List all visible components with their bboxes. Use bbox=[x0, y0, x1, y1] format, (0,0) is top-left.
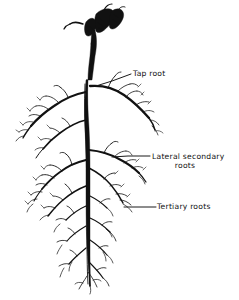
callout-label-tap-root: Tap root bbox=[132, 69, 166, 78]
root-system-figure: Tap root Lateral secondary roots Tertiar… bbox=[0, 0, 239, 300]
figure-background bbox=[0, 0, 239, 300]
callout-label-lateral-secondary-roots-line1: Lateral secondary bbox=[152, 152, 225, 161]
callout-label-lateral-secondary-roots-line2: roots bbox=[175, 161, 195, 170]
callout-label-tertiary-roots: Tertiary roots bbox=[156, 202, 211, 211]
figure-canvas: Tap root Lateral secondary roots Tertiar… bbox=[0, 0, 239, 300]
